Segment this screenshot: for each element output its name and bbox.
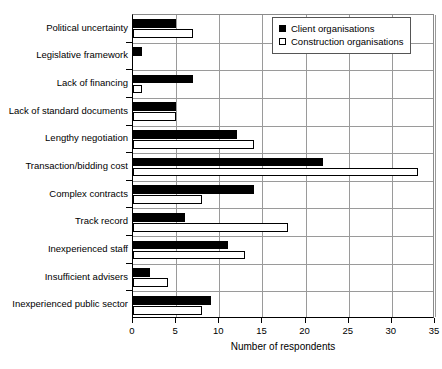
x-axis-tick-label: 5 [160, 325, 190, 336]
y-axis-tick [126, 290, 132, 291]
bar-client [133, 47, 142, 56]
x-axis-tick-label: 35 [419, 325, 442, 336]
category-label: Lack of standard documents [2, 105, 128, 116]
bar-construction [133, 85, 142, 94]
bar-client [133, 213, 185, 222]
category-label: Legislative framework [2, 49, 128, 60]
gridline-35 [435, 15, 436, 317]
y-axis-tick [126, 180, 132, 181]
y-axis-tick [126, 263, 132, 264]
x-axis-tick [391, 318, 392, 323]
category-label: Lengthy negotiation [2, 132, 128, 143]
bar-client [133, 268, 150, 277]
y-axis-tick [126, 125, 132, 126]
category-label: Track record [2, 215, 128, 226]
y-axis-tick [126, 97, 132, 98]
x-axis-tick-label: 0 [117, 325, 147, 336]
category-separator [133, 208, 433, 209]
category-label: Lack of financing [2, 77, 128, 88]
y-axis-tick [126, 69, 132, 70]
category-separator [133, 264, 433, 265]
y-axis-tick [126, 152, 132, 153]
x-axis-tick [348, 318, 349, 323]
bar-construction [133, 168, 418, 177]
x-axis-tick [434, 318, 435, 323]
hollow-square-icon [279, 38, 286, 45]
x-axis-tick-label: 30 [376, 325, 406, 336]
legend-item-client: Client organisations [279, 22, 403, 35]
category-label: Transaction/bidding cost [2, 160, 128, 171]
x-axis-tick [261, 318, 262, 323]
y-axis-tick [126, 235, 132, 236]
category-label: Insufficient advisers [2, 271, 128, 282]
y-axis-tick [126, 42, 132, 43]
category-label: Inexperienced public sector [2, 298, 128, 309]
x-axis-tick [175, 318, 176, 323]
x-axis-tick-label: 10 [203, 325, 233, 336]
category-separator [133, 236, 433, 237]
category-separator [133, 126, 433, 127]
legend-label-client: Client organisations [291, 23, 374, 34]
bar-construction [133, 278, 168, 287]
category-label: Political uncertainty [2, 22, 128, 33]
bar-client [133, 185, 254, 194]
x-axis-tick-label: 20 [290, 325, 320, 336]
plot-area [132, 14, 434, 318]
x-axis-title: Number of respondents [132, 341, 434, 352]
bar-construction [133, 251, 245, 260]
bar-construction [133, 195, 202, 204]
filled-square-icon [279, 25, 286, 32]
bar-client [133, 296, 211, 305]
bar-construction [133, 29, 193, 38]
bar-client [133, 130, 237, 139]
bar-construction [133, 112, 176, 121]
x-axis-tick-label: 25 [333, 325, 363, 336]
bar-construction [133, 140, 254, 149]
bar-client [133, 75, 193, 84]
bar-chart: Political uncertaintyLegislative framewo… [0, 0, 442, 369]
bar-client [133, 102, 176, 111]
y-axis-tick [126, 207, 132, 208]
category-separator [133, 153, 433, 154]
category-separator [133, 70, 433, 71]
bar-client [133, 19, 176, 28]
x-axis-tick [132, 318, 133, 323]
x-axis-tick-label: 15 [246, 325, 276, 336]
gridline-25 [349, 15, 350, 317]
bar-construction [133, 306, 202, 315]
chart-legend: Client organisations Construction organi… [272, 17, 411, 54]
bar-construction [133, 223, 288, 232]
gridline-30 [392, 15, 393, 317]
category-separator [133, 181, 433, 182]
x-axis-tick [218, 318, 219, 323]
legend-label-construction: Construction organisations [291, 36, 403, 47]
category-separator [133, 98, 433, 99]
bar-client [133, 158, 323, 167]
legend-item-construction: Construction organisations [279, 35, 403, 48]
x-axis-tick [305, 318, 306, 323]
category-label: Complex contracts [2, 188, 128, 199]
category-axis-labels: Political uncertaintyLegislative framewo… [0, 14, 128, 318]
category-separator [133, 291, 433, 292]
bar-client [133, 241, 228, 250]
category-label: Inexperienced staff [2, 243, 128, 254]
